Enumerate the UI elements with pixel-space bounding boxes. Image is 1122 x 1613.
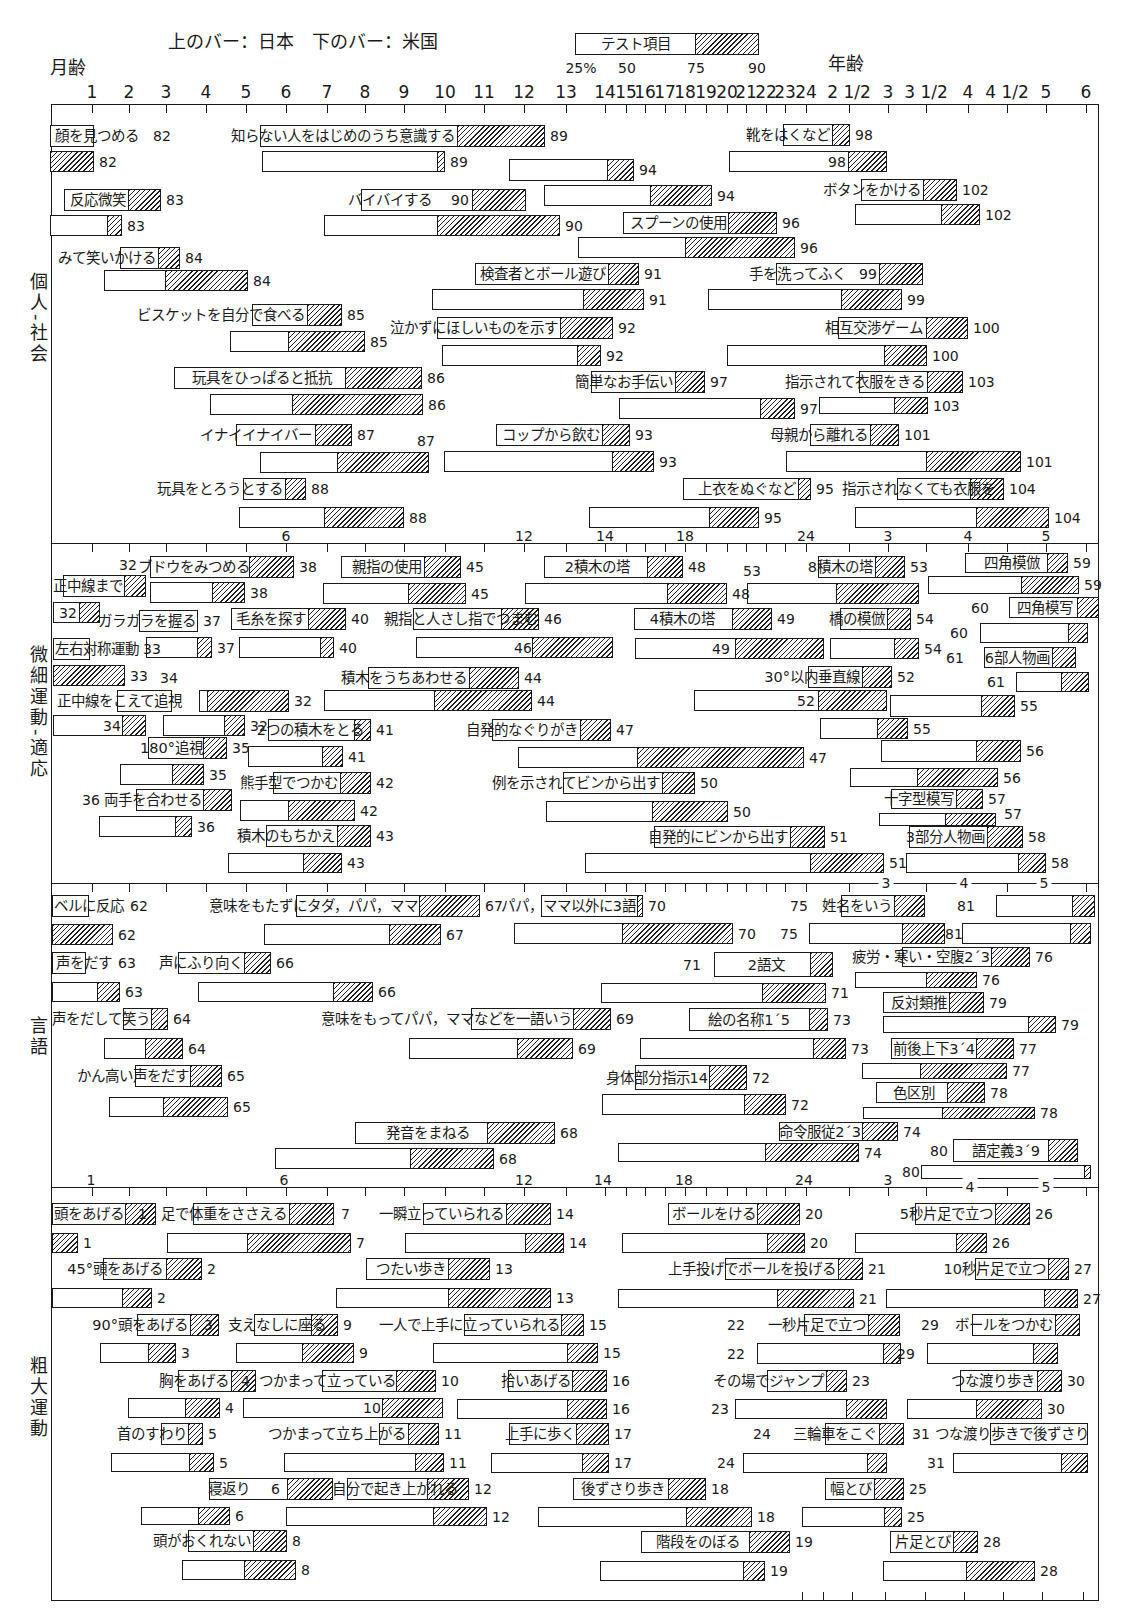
us-bar xyxy=(53,715,146,736)
tick-mark xyxy=(327,1187,328,1196)
tick-mark xyxy=(246,883,247,892)
tick-mark xyxy=(1007,1187,1008,1196)
hatch-75-90 xyxy=(128,190,160,210)
japan-item-number: 23 xyxy=(852,1372,870,1390)
us-item-number: 102 xyxy=(985,206,1012,224)
us-bar xyxy=(240,800,355,821)
japan-item-number: 19 xyxy=(795,1533,813,1551)
us-item-number: 69 xyxy=(578,1040,596,1058)
item-label: 発音をまねる xyxy=(386,1124,470,1142)
us-bar xyxy=(53,665,125,686)
hatch-75-90 xyxy=(53,925,112,944)
item-label: 毛糸を探す xyxy=(236,610,306,628)
tick-mark xyxy=(404,883,405,892)
us-bar xyxy=(432,289,644,310)
item-label: 2積木の塔 xyxy=(565,558,630,576)
us-bar xyxy=(324,215,560,236)
tick-mark xyxy=(806,883,807,892)
tick-mark xyxy=(365,883,366,892)
item-label: 疲労・寒い・空腹2´3 xyxy=(852,948,990,966)
item-label: 頭をあげる xyxy=(54,1205,124,1223)
japan-item-number: 8 xyxy=(292,1532,301,1550)
us-item-number: 57 xyxy=(1004,805,1022,823)
us-bar xyxy=(883,1561,1035,1581)
japan-item-number: 33 xyxy=(143,640,161,658)
us-item-number: 64 xyxy=(188,1040,206,1058)
japan-item-number: 86 xyxy=(427,369,445,387)
tick-mark xyxy=(849,1187,850,1196)
us-item-number: 13 xyxy=(556,1289,574,1307)
us-item-number: 17 xyxy=(614,1454,632,1472)
hatch-75-90 xyxy=(953,1532,977,1552)
item-label: 声をだす xyxy=(56,954,112,972)
us-item-number: 25 xyxy=(907,1508,925,1526)
us-bar xyxy=(111,1453,214,1472)
us-bar xyxy=(809,923,945,944)
hatch-75-90 xyxy=(410,1149,493,1168)
us-bar xyxy=(275,1148,494,1169)
axis-tick-label: 23 xyxy=(774,83,796,101)
tick-mark xyxy=(1086,1187,1087,1196)
axis-tick-label: 4 xyxy=(963,83,974,101)
us-item-number: 74 xyxy=(864,1144,882,1162)
japan-bar xyxy=(881,740,1021,762)
us-item-number: 14 xyxy=(569,1234,587,1252)
us-item-number: 100 xyxy=(932,347,959,365)
japan-item-number: 14 xyxy=(556,1205,574,1223)
tick-mark xyxy=(206,104,207,113)
hatch-75-90 xyxy=(247,1234,350,1252)
item-label: 4積木の塔 xyxy=(650,610,715,628)
us-item-number: 62 xyxy=(118,926,136,944)
us-item-number: 29 xyxy=(897,1345,915,1363)
us-bar xyxy=(50,151,94,172)
us-bar xyxy=(444,451,654,472)
hatch-75-90 xyxy=(54,666,124,685)
japan-item-number: 36 xyxy=(82,791,100,809)
japan-item-number: 91 xyxy=(644,265,662,283)
us-bar xyxy=(862,1063,1007,1079)
japan-item-number: 56 xyxy=(1026,742,1044,760)
hatch-75-90 xyxy=(1055,1315,1079,1335)
hatch-75-90 xyxy=(884,346,926,365)
us-item-number: 77 xyxy=(1012,1062,1030,1080)
tick-mark xyxy=(1003,1592,1004,1601)
item-label: 自発的にビンから出す xyxy=(648,828,788,846)
tick-mark xyxy=(605,104,606,113)
japan-item-number: 74 xyxy=(903,1123,921,1141)
us-item-number: 38 xyxy=(250,584,268,602)
item-label: 母親から離れる xyxy=(770,426,868,444)
item-label: 姓名をいう xyxy=(822,897,892,915)
japan-item-number: 48 xyxy=(688,558,706,576)
hatch-75-90 xyxy=(122,1289,151,1307)
tick-mark xyxy=(1086,104,1087,113)
item-label: 幅とび xyxy=(830,1480,872,1498)
tick-mark xyxy=(246,1187,247,1196)
item-label: コップから飲む xyxy=(502,426,600,444)
hatch-75-90 xyxy=(668,1479,705,1499)
us-item-number: 43 xyxy=(347,854,365,872)
us-bar xyxy=(198,982,373,1002)
japan-bar xyxy=(890,695,1015,717)
us-bar xyxy=(855,204,980,225)
us-bar xyxy=(743,1453,887,1473)
us-item-number: 68 xyxy=(499,1150,517,1168)
item-label: 反応微笑 xyxy=(70,191,126,209)
hatch-75-90 xyxy=(469,668,518,688)
tick-mark xyxy=(685,104,686,113)
hatch-75-90 xyxy=(224,716,244,735)
hatch-75-90 xyxy=(894,896,924,916)
tick-mark xyxy=(404,543,405,552)
item-label: 四角模倣 xyxy=(984,554,1040,572)
us-item-number: 32 xyxy=(59,604,77,622)
hatch-75-90 xyxy=(608,264,638,284)
tick-mark xyxy=(665,883,666,892)
item-label: ガラガラを握る xyxy=(98,612,196,630)
hatch-75-90 xyxy=(166,1259,201,1279)
item-label: 2つの積木をとる xyxy=(257,721,364,739)
japan-item-number: 52 xyxy=(897,668,915,686)
age-marker-label: 5 xyxy=(1037,874,1052,892)
age-marker-label: 5 xyxy=(1039,527,1054,545)
japan-item-number: 78 xyxy=(990,1084,1008,1102)
us-bar xyxy=(514,923,733,944)
hatch-75-90 xyxy=(145,1039,182,1058)
